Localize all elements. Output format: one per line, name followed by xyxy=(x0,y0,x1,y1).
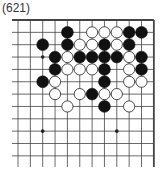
white-stone xyxy=(87,39,98,50)
black-stone xyxy=(37,76,49,88)
white-stone xyxy=(111,39,122,50)
black-stone xyxy=(99,64,111,76)
white-stone xyxy=(74,89,85,100)
white-stone xyxy=(74,39,85,50)
white-stone xyxy=(87,64,98,75)
black-stone xyxy=(86,88,98,100)
black-stone xyxy=(111,51,123,63)
white-stone xyxy=(99,27,110,38)
black-stone xyxy=(62,26,74,38)
white-stone xyxy=(62,51,73,62)
black-stone xyxy=(37,39,49,51)
black-stone xyxy=(123,26,135,38)
black-stone xyxy=(49,51,61,63)
black-stone xyxy=(49,64,61,76)
star-point xyxy=(41,129,45,133)
black-stone xyxy=(99,101,111,113)
white-stone xyxy=(62,101,73,112)
black-stone xyxy=(74,51,86,63)
white-stone xyxy=(124,76,135,87)
white-stone xyxy=(136,76,147,87)
black-stone xyxy=(136,51,148,63)
black-stone xyxy=(99,76,111,88)
white-stone xyxy=(111,89,122,100)
white-stone xyxy=(49,76,60,87)
white-stone xyxy=(124,101,135,112)
star-point xyxy=(115,129,119,133)
black-stone xyxy=(99,51,111,63)
black-stone xyxy=(136,64,148,76)
white-stone xyxy=(124,64,135,75)
white-stone xyxy=(62,64,73,75)
white-stone xyxy=(111,27,122,38)
black-stone xyxy=(86,51,98,63)
black-stone xyxy=(136,26,148,38)
black-stone xyxy=(123,39,135,51)
white-stone xyxy=(74,64,85,75)
white-stone xyxy=(124,51,135,62)
white-stone xyxy=(99,89,110,100)
black-stone xyxy=(99,39,111,51)
white-stone xyxy=(87,27,98,38)
star-point xyxy=(41,55,45,59)
white-stone xyxy=(49,89,60,100)
go-board xyxy=(0,0,161,169)
black-stone xyxy=(62,39,74,51)
